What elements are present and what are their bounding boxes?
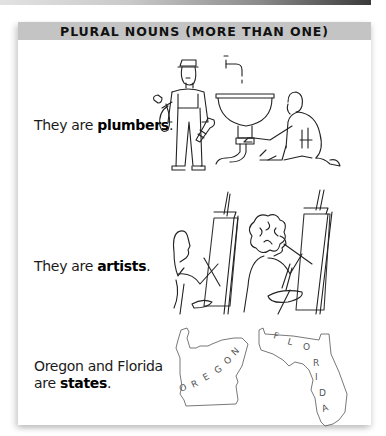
svg-text:G: G <box>212 363 223 375</box>
svg-text:D: D <box>319 388 326 398</box>
svg-text:R: R <box>190 378 200 390</box>
svg-text:L: L <box>286 336 293 347</box>
artists-sentence: They are artists. <box>34 258 150 275</box>
plural-nouns-card: PLURAL NOUNS (MORE THAN ONE) They are pl… <box>18 22 371 425</box>
plural-noun-states: states <box>60 375 107 391</box>
states-illustration: O R E G O N F L O R I D A <box>173 322 348 427</box>
svg-text:F: F <box>272 330 280 341</box>
svg-text:E: E <box>201 371 211 383</box>
svg-text:O: O <box>222 354 234 366</box>
sentence-prefix: They are <box>34 117 97 133</box>
sentence-period: . <box>146 258 150 274</box>
svg-text:O: O <box>178 382 189 394</box>
card-title: PLURAL NOUNS (MORE THAN ONE) <box>18 22 371 40</box>
florida-map-icon: F L O R I D A <box>259 328 347 426</box>
standing-plumber-icon <box>154 60 215 170</box>
sentence-line-1: Oregon and Florida <box>34 358 163 375</box>
plural-noun-artists: artists <box>97 258 146 274</box>
states-sentence: Oregon and Florida are states. <box>34 358 163 392</box>
svg-text:R: R <box>313 358 319 368</box>
sentence-prefix: are <box>34 375 60 391</box>
oregon-map-icon: O R E G O N <box>176 328 248 406</box>
svg-text:I: I <box>315 372 318 382</box>
faucet-icon <box>224 56 242 83</box>
kneeling-plumber-icon <box>244 92 340 166</box>
svg-text:A: A <box>320 402 330 414</box>
top-gradient-bar <box>0 0 371 5</box>
svg-text:O: O <box>303 342 310 352</box>
artist-right-icon <box>244 215 312 314</box>
plumbers-illustration <box>142 46 357 174</box>
svg-text:N: N <box>229 346 241 358</box>
artists-illustration <box>168 188 348 318</box>
sentence-line-2: are states. <box>34 375 163 392</box>
sentence-period: . <box>107 375 111 391</box>
easel-icon <box>204 192 238 314</box>
artist-left-icon <box>174 231 221 314</box>
sink-icon <box>216 94 274 164</box>
sentence-prefix: They are <box>34 258 97 274</box>
